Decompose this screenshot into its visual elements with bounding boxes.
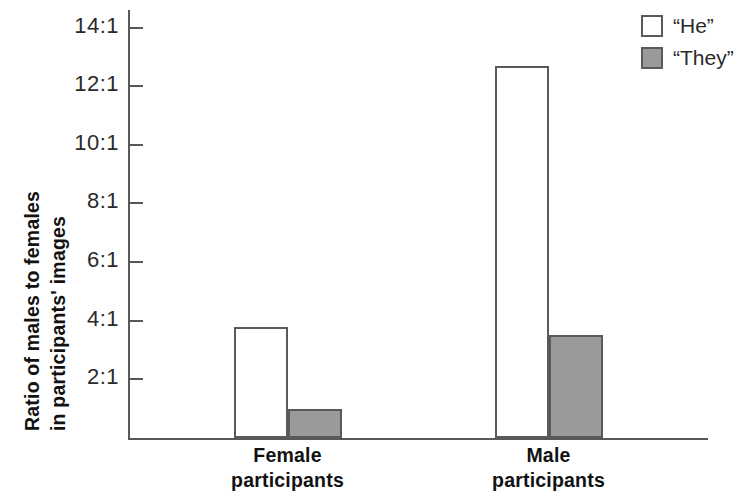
legend-item-they: “They” [641, 46, 734, 70]
chart-legend: “He” “They” [641, 14, 753, 76]
y-axis-tick-mark [130, 202, 143, 204]
x-axis-category-line: Male [439, 443, 659, 468]
y-axis-tick-mark [130, 261, 143, 263]
y-axis-tick-label: 14:1 [55, 13, 119, 39]
legend-label-he: “He” [673, 14, 714, 38]
x-axis-category-female: Femaleparticipants [178, 443, 398, 493]
x-axis-line [128, 438, 708, 440]
legend-label-they: “They” [673, 46, 734, 70]
y-axis-tick-mark [130, 85, 143, 87]
bar-he-male [495, 66, 549, 438]
y-axis-line [128, 10, 130, 440]
x-axis-category-line: participants [178, 468, 398, 493]
x-axis-category-labels: FemaleparticipantsMaleparticipants [128, 443, 708, 504]
bar-he-female [234, 327, 288, 438]
bar-chart-figure: Ratio of males to females in participant… [0, 0, 753, 504]
legend-swatch-he-icon [641, 15, 663, 37]
y-axis-tick-label: 8:1 [55, 188, 119, 214]
y-axis-tick-label: 2:1 [55, 364, 119, 390]
plot-area [128, 10, 708, 440]
y-axis-tick-mark [130, 27, 143, 29]
x-axis-category-line: participants [439, 468, 659, 493]
y-axis-tick-label: 4:1 [55, 306, 119, 332]
x-axis-category-male: Maleparticipants [439, 443, 659, 493]
y-axis-tick-label: 10:1 [55, 130, 119, 156]
legend-item-he: “He” [641, 14, 714, 38]
y-axis-tick-mark [130, 144, 143, 146]
legend-swatch-they-icon [641, 47, 663, 69]
x-axis-category-line: Female [178, 443, 398, 468]
y-axis-tick-label: 6:1 [55, 247, 119, 273]
bar-they-male [549, 335, 603, 438]
y-axis-title-line-1: Ratio of males to females [21, 191, 44, 431]
y-axis-tick-label: 12:1 [55, 71, 119, 97]
y-axis-tick-labels: 2:14:16:18:110:112:114:1 [55, 0, 119, 460]
y-axis-tick-mark [130, 378, 143, 380]
y-axis-tick-mark [130, 320, 143, 322]
bar-they-female [288, 409, 342, 438]
y-axis-title: Ratio of males to females in participant… [0, 0, 56, 460]
